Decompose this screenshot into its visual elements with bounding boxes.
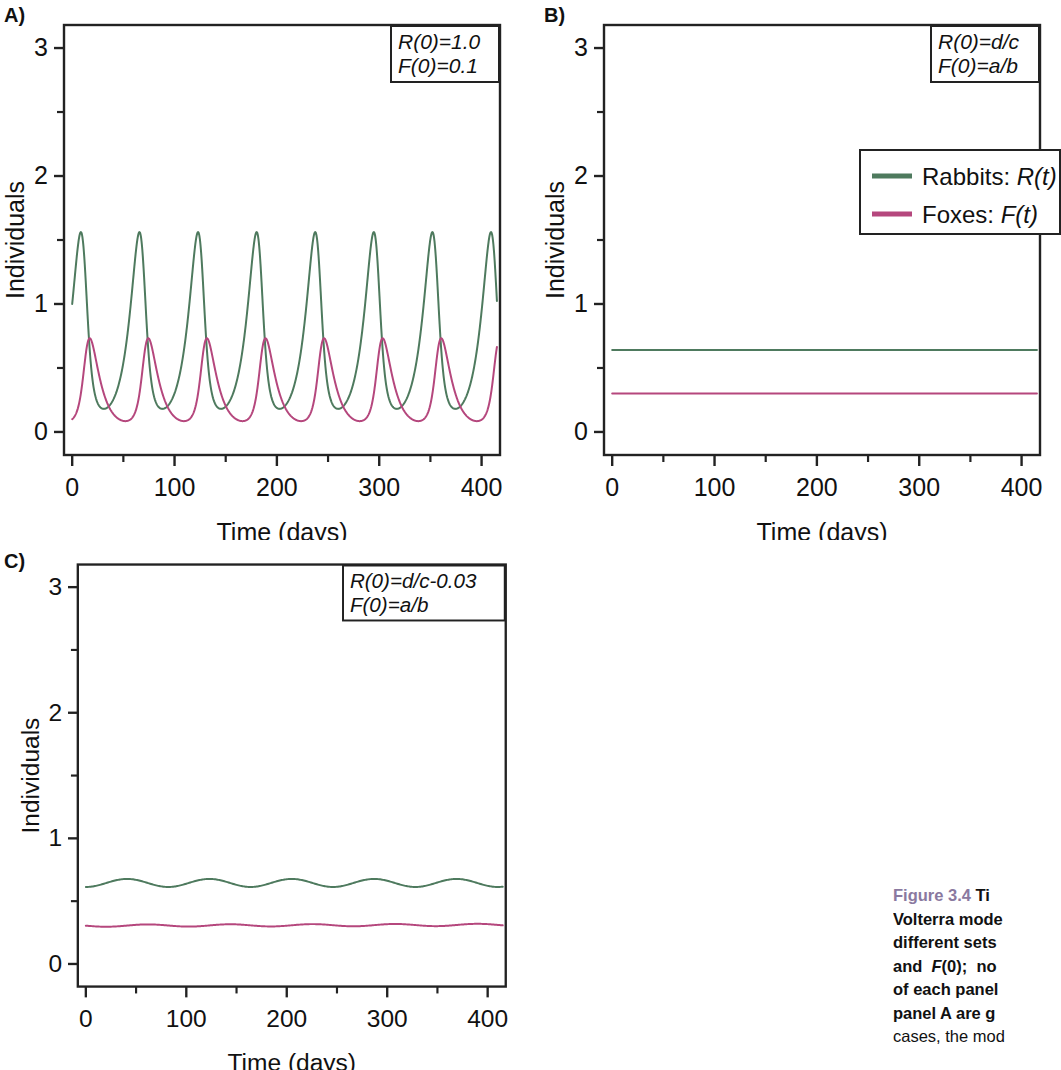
y-tick-label: 1 xyxy=(574,289,588,317)
caption-line-5: of each panel xyxy=(893,978,1061,1002)
figure-caption: Figure 3.4 Ti Volterra mode different se… xyxy=(893,884,1061,1070)
caption-line-1-text: Ti xyxy=(971,886,990,904)
y-tick-label: 0 xyxy=(34,417,48,445)
x-tick-label: 100 xyxy=(694,473,736,501)
y-tick-label: 0 xyxy=(574,417,588,445)
annotation-box: R(0)=1.0F(0)=0.1 xyxy=(391,26,499,82)
panel-c: C) 01230100200300400Time (days)Individua… xyxy=(0,540,560,1070)
panel-c-letter: C) xyxy=(4,550,25,573)
annotation-line: F(0)=a/b xyxy=(350,593,428,616)
y-tick-label: 1 xyxy=(34,289,48,317)
panel-a-letter: A) xyxy=(4,4,25,27)
x-tick-label: 400 xyxy=(461,473,503,501)
panel-b-letter: B) xyxy=(544,4,565,27)
foxes-curve xyxy=(86,924,503,927)
x-tick-label: 400 xyxy=(467,1005,508,1032)
annotation-line: R(0)=1.0 xyxy=(398,30,481,53)
annotation-line: F(0)=0.1 xyxy=(398,54,478,77)
legend-label: Rabbits: R(t) xyxy=(922,163,1057,190)
x-tick-label: 0 xyxy=(65,473,79,501)
panel-a-plot: 01230100200300400Time (days)IndividualsR… xyxy=(0,0,540,540)
x-tick-label: 400 xyxy=(1001,473,1043,501)
caption-line-1: Figure 3.4 Ti xyxy=(893,884,1061,908)
annotation-box: R(0)=d/c-0.03F(0)=a/b xyxy=(343,566,505,621)
caption-line-3: different sets xyxy=(893,931,1061,955)
x-tick-label: 0 xyxy=(79,1005,93,1032)
y-tick-label: 3 xyxy=(34,33,48,61)
x-tick-label: 200 xyxy=(256,473,298,501)
panel-b-plot: 01230100200300400Time (days)IndividualsR… xyxy=(540,0,1061,540)
y-tick-label: 0 xyxy=(48,950,62,977)
y-tick-label: 3 xyxy=(574,33,588,61)
caption-line-2: Volterra mode xyxy=(893,908,1061,932)
y-axis-title: Individuals xyxy=(541,181,569,299)
y-axis-title: Individuals xyxy=(17,718,44,834)
x-axis-title: Time (days) xyxy=(216,518,347,540)
panel-a: A) 01230100200300400Time (days)Individua… xyxy=(0,0,540,540)
y-tick-label: 2 xyxy=(48,699,62,726)
plot-frame xyxy=(604,25,1040,455)
y-axis-title: Individuals xyxy=(1,181,29,299)
y-tick-label: 3 xyxy=(48,573,62,600)
x-tick-label: 100 xyxy=(166,1005,207,1032)
x-tick-label: 0 xyxy=(605,473,619,501)
y-tick-label: 2 xyxy=(34,161,48,189)
plot-frame xyxy=(78,565,506,987)
x-tick-label: 300 xyxy=(898,473,940,501)
foxes-curve xyxy=(72,338,497,421)
caption-line-4: and F(0); no xyxy=(893,955,1061,979)
x-tick-label: 300 xyxy=(358,473,400,501)
x-tick-label: 100 xyxy=(154,473,196,501)
panel-c-plot: 01230100200300400Time (days)IndividualsR… xyxy=(0,540,560,1070)
caption-line-6: panel A are g xyxy=(893,1002,1061,1026)
panel-b: B) 01230100200300400Time (days)Individua… xyxy=(540,0,1061,540)
figure-3-4: A) 01230100200300400Time (days)Individua… xyxy=(0,0,1061,1070)
annotation-line: R(0)=d/c-0.03 xyxy=(350,569,477,592)
annotation-box: R(0)=d/cF(0)=a/b xyxy=(931,26,1039,82)
caption-figure-number: Figure 3.4 xyxy=(893,886,971,904)
x-tick-label: 200 xyxy=(796,473,838,501)
annotation-line: F(0)=a/b xyxy=(938,54,1018,77)
x-tick-label: 200 xyxy=(266,1005,307,1032)
caption-line-7: cases, the mod xyxy=(893,1025,1061,1049)
x-axis-title: Time (days) xyxy=(756,518,887,540)
legend-label: Foxes: F(t) xyxy=(922,201,1038,228)
annotation-line: R(0)=d/c xyxy=(938,30,1020,53)
plot-legend: Rabbits: R(t)Foxes: F(t) xyxy=(860,150,1060,234)
x-axis-title: Time (days) xyxy=(228,1049,357,1070)
rabbits-curve xyxy=(86,879,503,887)
y-tick-label: 1 xyxy=(48,824,62,851)
y-tick-label: 2 xyxy=(574,161,588,189)
x-tick-label: 300 xyxy=(367,1005,408,1032)
